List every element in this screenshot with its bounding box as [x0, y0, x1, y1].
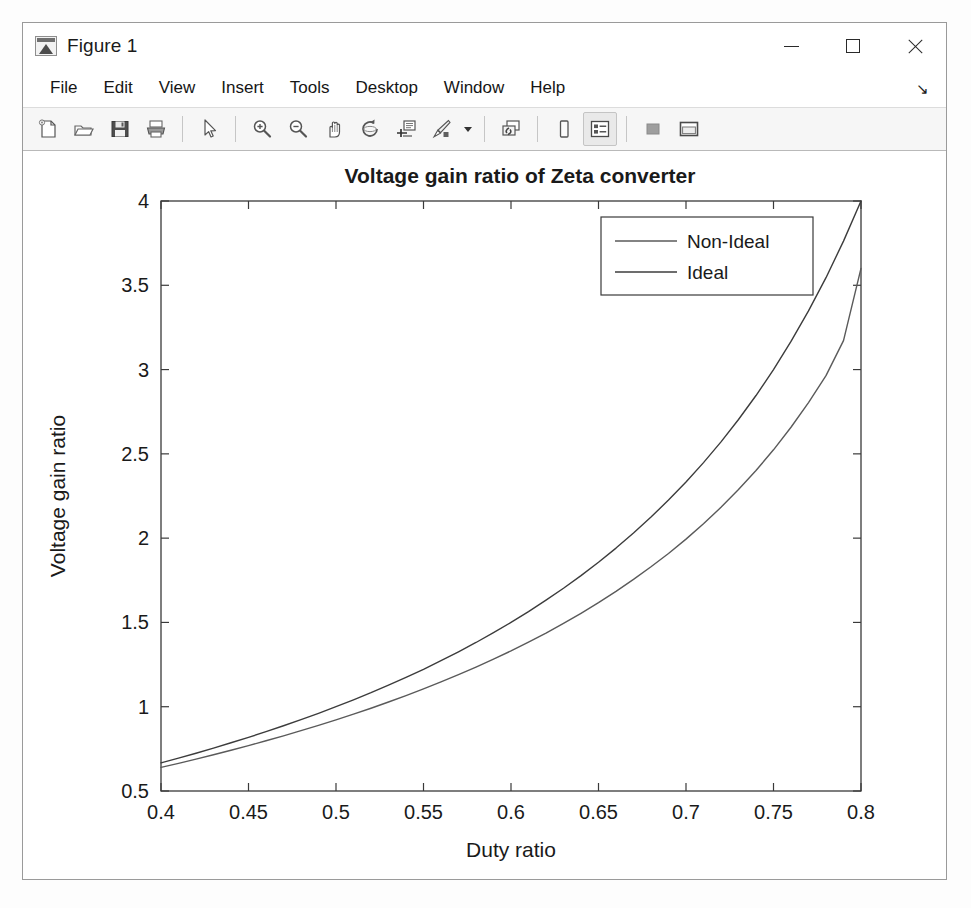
- x-axis-label: Duty ratio: [466, 838, 556, 861]
- title-bar-left: Figure 1: [23, 35, 138, 57]
- menu-item-edit[interactable]: Edit: [90, 75, 145, 101]
- legend-icon: [588, 117, 612, 141]
- x-tick-label: 0.45: [229, 801, 268, 823]
- matlab-figure-icon: [35, 36, 57, 56]
- link-plot-button[interactable]: [494, 112, 528, 146]
- dock-arrow-icon[interactable]: ↘: [914, 81, 930, 97]
- y-tick-label: 0.5: [121, 780, 149, 802]
- figure-window: Figure 1 File Edit View Insert Tools Des: [22, 22, 947, 880]
- save-figure-button[interactable]: [103, 112, 137, 146]
- colorbar-button[interactable]: [547, 112, 581, 146]
- figure-canvas[interactable]: Voltage gain ratio of Zeta converter 0.4…: [23, 151, 946, 879]
- menu-item-desktop[interactable]: Desktop: [342, 75, 430, 101]
- close-icon: [907, 38, 924, 55]
- open-file-button[interactable]: [67, 112, 101, 146]
- x-tick-label: 0.8: [847, 801, 875, 823]
- y-tick-label: 1: [138, 696, 149, 718]
- menu-item-help[interactable]: Help: [517, 75, 578, 101]
- toolbar-separator: [626, 116, 627, 142]
- menu-bar: File Edit View Insert Tools Desktop Wind…: [23, 69, 946, 107]
- zoom-out-icon: [286, 117, 310, 141]
- close-button[interactable]: [884, 23, 946, 69]
- y-tick-label: 4: [138, 190, 149, 212]
- pan-button[interactable]: [317, 112, 351, 146]
- x-tick-label: 0.65: [579, 801, 618, 823]
- menu-item-file[interactable]: File: [37, 75, 90, 101]
- new-figure-icon: [36, 117, 60, 141]
- chart-legend[interactable]: Non-IdealIdeal: [601, 217, 813, 295]
- brush-button[interactable]: [425, 112, 459, 146]
- menu-item-view[interactable]: View: [146, 75, 209, 101]
- y-tick-label: 2.5: [121, 443, 149, 465]
- pointer-arrow-icon: [197, 117, 221, 141]
- window-title: Figure 1: [67, 35, 138, 57]
- brush-dropdown-caret[interactable]: [461, 112, 475, 146]
- x-axis-tick-labels: 0.40.450.50.550.60.650.70.750.8: [147, 801, 875, 823]
- zoom-in-button[interactable]: [245, 112, 279, 146]
- chart-title: Voltage gain ratio of Zeta converter: [345, 164, 696, 187]
- title-bar: Figure 1: [23, 23, 946, 69]
- minimize-button[interactable]: [760, 23, 822, 69]
- hide-plot-tools-button[interactable]: [636, 112, 670, 146]
- rotate-3d-button[interactable]: [353, 112, 387, 146]
- show-plot-tools-button[interactable]: [672, 112, 706, 146]
- menu-item-insert[interactable]: Insert: [208, 75, 277, 101]
- y-tick-label: 2: [138, 527, 149, 549]
- print-figure-icon: [144, 117, 168, 141]
- y-tick-label: 3: [138, 359, 149, 381]
- window-controls: [760, 23, 946, 69]
- rotate-3d-icon: [358, 117, 382, 141]
- screenshot-root: Figure 1 File Edit View Insert Tools Des: [0, 0, 971, 908]
- menu-item-tools[interactable]: Tools: [277, 75, 343, 101]
- toolbar: [23, 107, 946, 151]
- data-cursor-icon: [394, 117, 418, 141]
- x-tick-label: 0.4: [147, 801, 175, 823]
- y-axis-label: Voltage gain ratio: [46, 415, 69, 577]
- new-figure-button[interactable]: [31, 112, 65, 146]
- pan-hand-icon: [322, 117, 346, 141]
- edit-plot-button[interactable]: [192, 112, 226, 146]
- legend-label-1: Ideal: [687, 262, 728, 283]
- y-tick-label: 3.5: [121, 274, 149, 296]
- hide-plot-tools-icon: [641, 117, 665, 141]
- show-plot-tools-icon: [677, 117, 701, 141]
- x-tick-label: 0.7: [672, 801, 700, 823]
- colorbar-icon: [552, 117, 576, 141]
- link-plot-icon: [499, 117, 523, 141]
- print-figure-button[interactable]: [139, 112, 173, 146]
- toolbar-separator: [537, 116, 538, 142]
- minimize-icon: [784, 46, 799, 47]
- maximize-button[interactable]: [822, 23, 884, 69]
- data-cursor-button[interactable]: [389, 112, 423, 146]
- x-tick-label: 0.55: [404, 801, 443, 823]
- toolbar-separator: [182, 116, 183, 142]
- maximize-icon: [846, 39, 860, 53]
- save-figure-icon: [108, 117, 132, 141]
- toolbar-separator: [484, 116, 485, 142]
- brush-icon: [430, 117, 454, 141]
- plot-svg: Voltage gain ratio of Zeta converter 0.4…: [23, 151, 946, 879]
- x-tick-label: 0.75: [754, 801, 793, 823]
- legend-label-0: Non-Ideal: [687, 231, 769, 252]
- x-tick-label: 0.5: [322, 801, 350, 823]
- toolbar-separator: [235, 116, 236, 142]
- x-tick-label: 0.6: [497, 801, 525, 823]
- zoom-in-icon: [250, 117, 274, 141]
- open-file-icon: [72, 117, 96, 141]
- y-tick-label: 1.5: [121, 611, 149, 633]
- zoom-out-button[interactable]: [281, 112, 315, 146]
- legend-box: [601, 217, 813, 295]
- legend-button[interactable]: [583, 112, 617, 146]
- menu-item-window[interactable]: Window: [431, 75, 517, 101]
